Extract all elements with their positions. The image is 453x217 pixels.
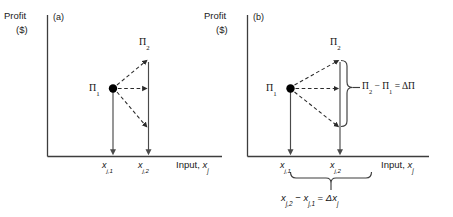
- panel-a-x-axis-prefix: Input,: [176, 159, 202, 170]
- delta-profit-a: Π: [362, 81, 369, 91]
- panel-a-change-arrows: [117, 61, 146, 126]
- delta-profit-minus: −: [372, 81, 382, 91]
- panel-b-tag: (b): [253, 12, 264, 22]
- panel-a-tick-2-sub: j,2: [143, 167, 149, 174]
- panel-b-change-arrows: [295, 61, 338, 126]
- delta-input-brace: [291, 172, 372, 190]
- panel-b-tick-label-2: xj,2: [330, 160, 341, 170]
- delta-profit-b-sub: 1: [389, 88, 392, 95]
- panel-b-x-axis-label: Input, xj: [381, 160, 414, 171]
- delta-profit-equals: =: [392, 81, 402, 91]
- delta-input-annotation: xj,2 − xj,1 = Δxj: [281, 193, 338, 204]
- panel-b-y-axis-label-line1: Profit: [204, 11, 226, 22]
- panel-b-pi2-sub: 2: [337, 44, 340, 51]
- delta-profit-brace: [341, 61, 360, 127]
- panel-a-tick-1-var: x: [102, 160, 107, 170]
- panel-b-pi2-label: Π2: [330, 36, 341, 48]
- panel-a-y-axis-label-line1: Profit: [4, 11, 26, 22]
- delta-profit-a-sub: 2: [369, 88, 372, 95]
- delta-profit-result: ΔΠ: [402, 81, 415, 91]
- panel-b-pi1-label: Π1: [266, 82, 277, 94]
- figure-root: Profit ($) (a) Π1 Π2 xj,1 xj,2 Input, xj…: [0, 0, 453, 217]
- panel-b-pi1-point: [286, 84, 294, 92]
- panel-a-pi1-point: [109, 84, 117, 92]
- panel-b-drop-lines: [291, 62, 341, 153]
- delta-input-equals: =: [315, 192, 326, 203]
- panel-a-tick-1-sub: j,1: [107, 167, 113, 174]
- delta-profit-annotation: Π2 − Π1 = ΔΠ: [362, 81, 415, 92]
- delta-input-a-sub: j,2: [286, 200, 293, 207]
- panel-b-tick-1-var: x: [280, 160, 285, 170]
- panel-a-pi2-label: Π2: [139, 36, 150, 48]
- panel-a-tag: (a): [53, 12, 64, 22]
- panel-b-tick-label-1: xj,1: [280, 160, 291, 170]
- panel-a-tick-label-2: xj,2: [138, 160, 149, 170]
- panel-a-axes: [48, 15, 223, 157]
- panel-b-tick-2-sub: j,2: [335, 167, 341, 174]
- panel-a-tick-2-var: x: [138, 160, 143, 170]
- panel-a-y-axis-label-line2: ($): [16, 25, 28, 36]
- panel-b-y-axis-label-line2: ($): [216, 25, 228, 36]
- delta-input-result: Δx: [326, 192, 337, 203]
- panel-a-tick-label-1: xj,1: [102, 160, 113, 170]
- panel-a-x-axis-label: Input, xj: [176, 160, 209, 171]
- panel-b-x-axis-sub: j: [412, 167, 413, 174]
- panel-a-pi2-sub: 2: [146, 44, 149, 51]
- panel-a-pi1-label: Π1: [89, 82, 100, 94]
- panel-b-tick-1-sub: j,1: [285, 167, 291, 174]
- panel-b-tick-2-var: x: [330, 160, 335, 170]
- panel-a-x-axis-sub: j: [207, 167, 208, 174]
- delta-input-b-sub: j,1: [308, 200, 315, 207]
- delta-input-minus: −: [293, 192, 304, 203]
- panel-a-pi1-sub: 1: [96, 90, 99, 97]
- panel-b-pi1-sub: 1: [273, 90, 276, 97]
- panel-b-x-axis-prefix: Input,: [381, 159, 407, 170]
